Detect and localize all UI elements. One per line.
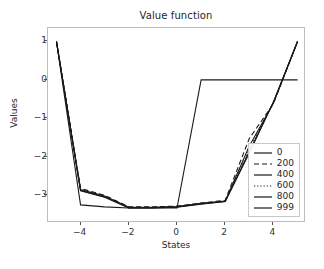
- legend-item[interactable]: 200: [253, 158, 294, 169]
- legend-line-swatch: [253, 159, 273, 169]
- y-tick-label: −1: [33, 113, 47, 122]
- figure-canvas: Value function 0200400600800999 10−1−2−3…: [0, 0, 324, 269]
- legend-label: 400: [277, 170, 294, 179]
- legend-label: 600: [277, 181, 294, 190]
- y-tick-label: 0: [33, 74, 47, 83]
- legend-label: 0: [277, 148, 283, 157]
- x-tick-label: 0: [165, 228, 187, 237]
- legend-line-swatch: [253, 192, 273, 202]
- y-axis-ticks: 10−1−2−3: [28, 27, 47, 222]
- y-tick-label: −2: [33, 151, 47, 160]
- x-axis-label: States: [47, 240, 305, 250]
- legend-line-swatch: [253, 203, 273, 213]
- x-tick-mark: [176, 222, 177, 225]
- x-tick-label: 2: [213, 228, 235, 237]
- legend-line-swatch: [253, 181, 273, 191]
- legend-line-swatch: [253, 170, 273, 180]
- chart-title: Value function: [47, 10, 305, 21]
- x-axis-ticks: −4−2024: [47, 222, 305, 242]
- plot-area: 0200400600800999: [47, 27, 305, 222]
- y-tick-label: −3: [33, 190, 47, 199]
- x-tick-mark: [272, 222, 273, 225]
- x-tick-label: −2: [117, 228, 139, 237]
- x-tick-label: 4: [261, 228, 283, 237]
- legend-line-swatch: [253, 148, 273, 158]
- legend-label: 200: [277, 159, 294, 168]
- x-tick-label: −4: [69, 228, 91, 237]
- legend-label: 999: [277, 203, 294, 212]
- x-tick-mark: [224, 222, 225, 225]
- y-tick-label: 1: [33, 36, 47, 45]
- legend-item[interactable]: 400: [253, 169, 294, 180]
- legend-label: 800: [277, 192, 294, 201]
- y-axis-label: Values: [9, 83, 19, 143]
- x-tick-mark: [80, 222, 81, 225]
- legend-item[interactable]: 999: [253, 202, 294, 213]
- x-tick-mark: [128, 222, 129, 225]
- legend-item[interactable]: 600: [253, 180, 294, 191]
- legend-item[interactable]: 0: [253, 147, 294, 158]
- legend: 0200400600800999: [248, 143, 300, 217]
- legend-item[interactable]: 800: [253, 191, 294, 202]
